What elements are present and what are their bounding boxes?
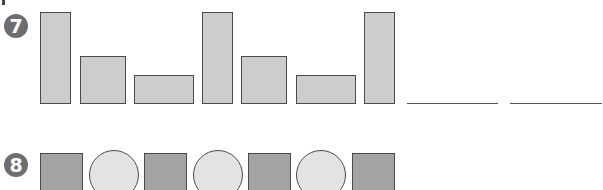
page-mark — [2, 0, 5, 5]
bar-short — [134, 75, 194, 104]
bar-medium — [80, 56, 126, 104]
bar-tall — [364, 12, 395, 104]
square-shape — [352, 153, 395, 190]
bar-tall — [202, 12, 233, 104]
problem-number-badge: 8 — [4, 153, 28, 177]
square-shape — [144, 153, 187, 190]
square-shape — [248, 153, 291, 190]
bar-tall — [40, 12, 71, 104]
circle-shape — [193, 150, 243, 190]
circle-shape — [296, 150, 346, 190]
bar-short — [296, 75, 356, 104]
bar-medium — [241, 56, 287, 104]
square-shape — [40, 153, 83, 190]
answer-blank-2[interactable] — [510, 103, 602, 104]
answer-blank-1[interactable] — [407, 103, 498, 104]
circle-shape — [89, 150, 139, 190]
problem-number-badge: 7 — [4, 14, 28, 38]
